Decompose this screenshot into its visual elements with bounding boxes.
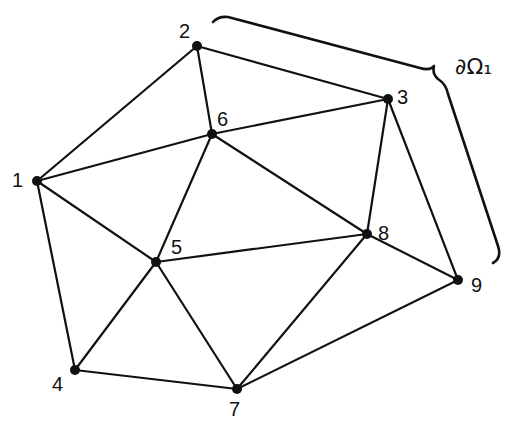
node-label-3: 3 [397, 86, 408, 108]
node-label-7: 7 [229, 398, 240, 420]
edge-3-9 [388, 99, 458, 280]
mesh-diagram: 123456789 ∂Ω₁ [0, 0, 523, 432]
node-1 [32, 176, 42, 186]
edge-5-4 [75, 262, 156, 370]
edge-5-8 [156, 234, 367, 262]
edge-3-6 [212, 99, 388, 134]
node-9 [453, 275, 463, 285]
node-label-5: 5 [171, 236, 182, 258]
node-2 [192, 41, 202, 51]
node-label-4: 4 [52, 373, 63, 395]
node-label-6: 6 [217, 108, 228, 130]
edge-3-8 [367, 99, 388, 234]
mesh-edges [37, 46, 458, 389]
edge-5-7 [156, 262, 237, 389]
edge-2-6 [197, 46, 212, 134]
edge-2-3 [197, 46, 388, 99]
node-label-2: 2 [179, 20, 190, 42]
node-label-1: 1 [12, 169, 23, 191]
edge-1-5 [37, 181, 156, 262]
node-4 [70, 365, 80, 375]
edge-8-7 [237, 234, 367, 389]
edge-1-4 [37, 181, 75, 370]
node-label-9: 9 [471, 274, 482, 296]
node-7 [232, 384, 242, 394]
node-8 [362, 229, 372, 239]
edge-6-5 [156, 134, 212, 262]
node-3 [383, 94, 393, 104]
edge-4-7 [75, 370, 237, 389]
node-5 [151, 257, 161, 267]
node-label-8: 8 [378, 222, 389, 244]
node-6 [207, 129, 217, 139]
edge-1-2 [37, 46, 197, 181]
boundary-label: ∂Ω₁ [455, 54, 492, 79]
edge-7-9 [237, 280, 458, 389]
edge-6-8 [212, 134, 367, 234]
